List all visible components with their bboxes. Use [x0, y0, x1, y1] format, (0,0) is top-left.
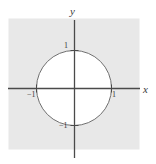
plot-canvas [0, 0, 156, 164]
tick-label-y-positive-one: 1 [64, 42, 68, 50]
y-axis-label: y [70, 6, 75, 17]
figure-container: y x 1 −1 −1 1 [0, 0, 156, 164]
x-axis-label: x [143, 84, 148, 95]
tick-label-x-positive-one: 1 [112, 91, 116, 99]
tick-label-y-negative-one: −1 [59, 122, 68, 130]
tick-label-x-negative-one: −1 [27, 91, 36, 99]
